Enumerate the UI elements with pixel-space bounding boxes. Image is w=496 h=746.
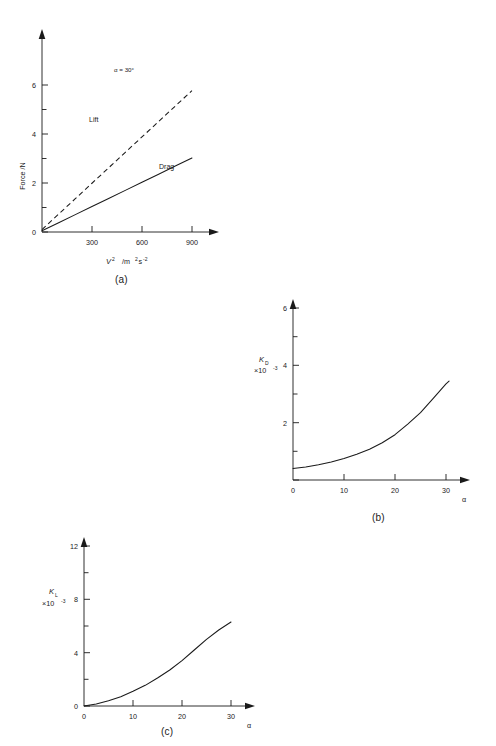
chart-a-y-axis-title-text: Force /N	[18, 162, 27, 190]
chart-b-x-axis-title: α	[462, 495, 466, 504]
chart-a-y-tick-label-0: 0	[32, 228, 36, 237]
chart-a-x-tick-label-600: 600	[136, 238, 148, 247]
chart-a-y-tick-label-4: 4	[32, 130, 36, 139]
chart-panel-c: 0 4 8 12 0 10 20 30 α K L ×10 -3	[36, 534, 271, 730]
chart-c-caption: (c)	[161, 726, 173, 737]
chart-a-x-axis-title-exponent: 2	[112, 256, 115, 262]
chart-c-svg: 0 4 8 12 0 10 20 30 α K L ×10 -3	[36, 534, 271, 730]
chart-c-y-axis-title-factor-exponent: -3	[61, 598, 66, 604]
chart-c-y-axis-arrow	[81, 537, 88, 547]
chart-c-y-tick-label-4: 4	[74, 649, 78, 658]
chart-panel-a: 0 2 4 6 300 600 900 Force /N V 2 /m 2 s …	[14, 26, 234, 271]
chart-a-y-tick-label-6: 6	[32, 81, 36, 90]
chart-a-y-tick-label-2: 2	[32, 179, 36, 188]
chart-b-caption: (b)	[372, 512, 385, 523]
chart-c-y-axis-title-factor: ×10	[42, 599, 54, 608]
chart-b-x-tick-label-30: 30	[442, 486, 450, 495]
chart-b-series-kd	[293, 381, 449, 468]
chart-c-x-axis-title: α	[247, 721, 251, 730]
chart-c-y-tick-label-0: 0	[74, 702, 78, 711]
chart-a-x-tick-label-300: 300	[86, 238, 98, 247]
chart-b-x-tick-label-0: 0	[291, 486, 295, 495]
chart-a-x-tick-label-900: 900	[186, 238, 198, 247]
chart-a-annotation-alpha: α = 30°	[114, 66, 135, 73]
chart-b-svg: 2 4 6 0 10 20 30 α K D ×10 -3	[248, 294, 483, 509]
chart-a-y-axis-title: Force /N	[18, 162, 27, 190]
chart-a-series-lift	[42, 91, 192, 230]
chart-b-y-axis-title-factor: ×10	[254, 366, 266, 375]
chart-a-caption: (a)	[115, 274, 128, 285]
chart-b-y-tick-label-6: 6	[283, 304, 287, 313]
chart-a-x-axis-title-units-s-exponent: -2	[143, 256, 148, 262]
chart-a-y-axis-arrow	[39, 29, 46, 39]
chart-c-x-tick-label-10: 10	[129, 712, 137, 721]
chart-b-y-axis-title-subscript: D	[265, 360, 269, 366]
chart-a-x-axis-title-units-s: s	[139, 257, 143, 266]
chart-a-x-axis-title-units: /m	[122, 257, 130, 266]
figure-page: 0 2 4 6 300 600 900 Force /N V 2 /m 2 s …	[0, 0, 496, 746]
chart-b-x-axis-arrow	[460, 477, 470, 483]
chart-c-x-tick-label-20: 20	[178, 712, 186, 721]
chart-c-x-axis-arrow	[245, 703, 255, 709]
chart-c-series-kl	[84, 622, 231, 706]
chart-a-series-label-drag: Drag	[159, 163, 174, 171]
chart-b-x-tick-label-10: 10	[340, 486, 348, 495]
chart-a-svg: 0 2 4 6 300 600 900 Force /N V 2 /m 2 s …	[14, 26, 234, 271]
chart-a-series-label-lift: Lift	[89, 116, 98, 123]
chart-b-y-axis-arrow	[290, 299, 297, 309]
chart-c-y-axis-title-subscript: L	[55, 592, 58, 598]
chart-b-y-axis-title: K D ×10 -3	[254, 355, 278, 375]
chart-a-x-axis-arrow	[209, 229, 219, 235]
chart-b-y-axis-title-factor-exponent: -3	[273, 365, 278, 371]
chart-b-y-tick-label-2: 2	[283, 419, 287, 428]
chart-b-y-tick-label-4: 4	[283, 361, 287, 370]
chart-c-y-tick-label-12: 12	[70, 542, 78, 551]
chart-b-x-tick-label-20: 20	[391, 486, 399, 495]
chart-c-y-axis-title: K L ×10 -3	[42, 587, 66, 608]
chart-panel-b: 2 4 6 0 10 20 30 α K D ×10 -3	[248, 294, 483, 509]
chart-a-x-axis-title: V 2 /m 2 s -2	[106, 256, 148, 267]
chart-c-x-tick-label-30: 30	[227, 712, 235, 721]
chart-c-y-tick-label-8: 8	[74, 595, 78, 604]
chart-c-x-tick-label-0: 0	[82, 712, 86, 721]
